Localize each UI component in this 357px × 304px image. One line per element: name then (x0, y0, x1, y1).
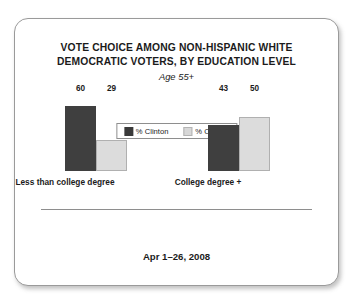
bar-obama (96, 140, 127, 172)
bar-value-clinton: 60 (65, 84, 96, 93)
bar-wrap-clinton: 60 (65, 95, 96, 171)
bar-value-obama: 50 (239, 84, 270, 93)
category-label-less-than-college: Less than college degree (15, 177, 114, 187)
plot-area: 60 29 Less than college degree 43 50 (15, 19, 338, 285)
bar-obama (239, 117, 270, 171)
bar-wrap-clinton: 43 (208, 95, 239, 171)
bar-value-obama: 29 (96, 84, 127, 93)
bar-group-bars: 60 29 (65, 95, 127, 171)
bar-group-bars: 43 50 (208, 95, 270, 171)
bar-clinton (65, 106, 96, 171)
bar-wrap-obama: 50 (239, 95, 270, 171)
bar-clinton (208, 125, 239, 172)
category-label-college-degree: College degree + (175, 177, 242, 187)
chart-card: VOTE CHOICE AMONG NON-HISPANIC WHITE DEM… (14, 18, 339, 286)
x-axis-line (41, 209, 312, 210)
bar-value-clinton: 43 (208, 84, 239, 93)
bar-wrap-obama: 29 (96, 95, 127, 171)
chart-footnote: Apr 1–26, 2008 (15, 251, 338, 262)
